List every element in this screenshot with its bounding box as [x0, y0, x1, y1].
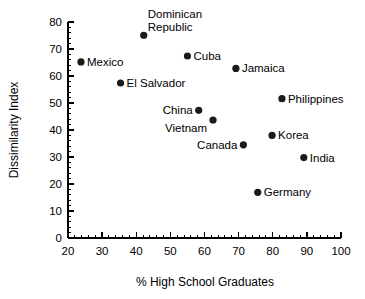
- x-tick-label: 100: [331, 245, 350, 257]
- x-tick-label: 90: [300, 245, 313, 257]
- data-point-label: Cuba: [193, 50, 221, 62]
- data-point: [195, 107, 202, 114]
- x-axis-tick-labels: 2030405060708090100: [62, 245, 351, 257]
- x-tick-label: 30: [96, 245, 109, 257]
- data-point: [278, 95, 285, 102]
- y-tick-label: 50: [49, 97, 62, 109]
- data-point-label: Philippines: [288, 93, 344, 105]
- data-point: [184, 52, 191, 59]
- y-tick-label: 60: [49, 70, 62, 82]
- x-tick-label: 20: [62, 245, 75, 257]
- y-tick-label: 10: [49, 205, 62, 217]
- y-axis-title: Dissimilarity Index: [7, 82, 21, 179]
- y-tick-label: 30: [49, 151, 62, 163]
- data-point: [117, 79, 124, 86]
- data-point: [140, 32, 147, 39]
- scatter-chart: 01020304050607080 2030405060708090100 Me…: [0, 0, 365, 299]
- data-point-label: India: [310, 152, 336, 164]
- y-axis-ticks: [68, 22, 74, 238]
- data-point-label: El Salvador: [127, 77, 186, 89]
- x-tick-label: 60: [198, 245, 211, 257]
- y-tick-label: 20: [49, 178, 62, 190]
- y-tick-label: 0: [56, 232, 62, 244]
- data-label-group: MexicoDominicanRepublicEl SalvadorCubaJa…: [87, 8, 344, 198]
- data-point-label: Mexico: [87, 56, 123, 68]
- x-tick-label: 80: [266, 245, 279, 257]
- x-tick-label: 40: [130, 245, 143, 257]
- data-point: [240, 141, 247, 148]
- data-point-label: China: [163, 104, 194, 116]
- data-point-label: Vietnam: [165, 122, 207, 134]
- data-point: [77, 58, 84, 65]
- data-point-label: Canada: [197, 139, 238, 151]
- plot-area: 01020304050607080 2030405060708090100 Me…: [0, 0, 365, 299]
- y-tick-label: 70: [49, 43, 62, 55]
- y-tick-label: 40: [49, 124, 62, 136]
- y-axis-tick-labels: 01020304050607080: [49, 16, 62, 244]
- y-tick-label: 80: [49, 16, 62, 28]
- data-point: [232, 65, 239, 72]
- x-axis-title: % High School Graduates: [136, 275, 274, 289]
- data-point: [268, 132, 275, 139]
- data-point: [209, 116, 216, 123]
- x-tick-label: 50: [164, 245, 177, 257]
- data-point-label: DominicanRepublic: [148, 8, 202, 33]
- data-point-label: Korea: [278, 129, 309, 141]
- data-point-label: Jamaica: [242, 62, 285, 74]
- data-point: [254, 189, 261, 196]
- x-tick-label: 70: [232, 245, 245, 257]
- data-point: [300, 154, 307, 161]
- x-axis-ticks: [68, 232, 341, 238]
- data-point-label: Germany: [264, 186, 312, 198]
